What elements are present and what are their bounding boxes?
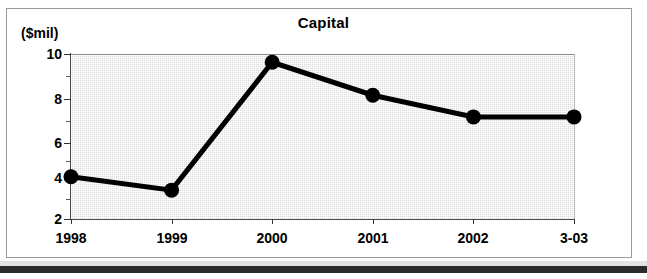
data-point-3-03 — [567, 109, 582, 124]
scan-artifact-dark — [0, 266, 647, 273]
series-line-capital — [71, 62, 574, 190]
data-point-2000 — [265, 55, 280, 70]
chart-screenshot: Capital ($mil) 10 8 6 4 2 1998 1999 2000… — [0, 0, 647, 279]
data-series-capital — [0, 0, 647, 279]
data-point-2001 — [365, 88, 380, 103]
data-point-1998 — [64, 169, 79, 184]
data-point-2002 — [466, 109, 481, 124]
data-point-1999 — [164, 183, 179, 198]
